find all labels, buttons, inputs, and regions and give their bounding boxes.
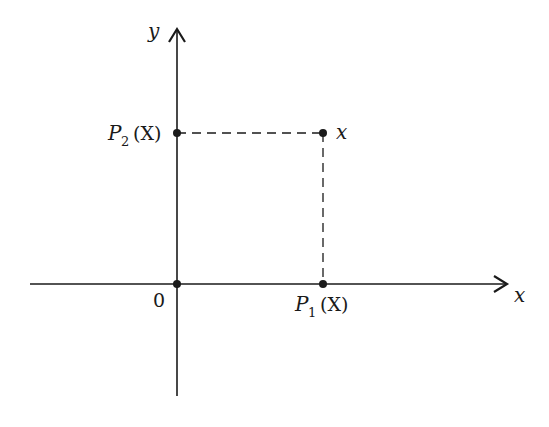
p2-label-sub: 2 bbox=[121, 134, 129, 149]
origin-dot bbox=[173, 280, 181, 288]
point-p2-dot bbox=[173, 129, 181, 137]
point-x-label: x bbox=[336, 120, 347, 144]
coordinate-diagram: y x 0 x P 2 (X) P 1 (X) bbox=[0, 0, 549, 427]
point-p1-dot bbox=[319, 280, 327, 288]
y-axis-label: y bbox=[147, 19, 160, 43]
p1-label-sub: 1 bbox=[308, 305, 316, 320]
x-axis-label: x bbox=[514, 283, 525, 307]
p2-label: P 2 (X) bbox=[107, 121, 161, 149]
p1-label-arg: (X) bbox=[320, 293, 348, 315]
origin-label: 0 bbox=[153, 289, 165, 311]
p1-label-main: P bbox=[294, 292, 309, 316]
p1-label: P 1 (X) bbox=[294, 292, 348, 320]
point-x-dot bbox=[319, 129, 327, 137]
p2-label-arg: (X) bbox=[133, 122, 161, 144]
p2-label-main: P bbox=[107, 121, 122, 145]
